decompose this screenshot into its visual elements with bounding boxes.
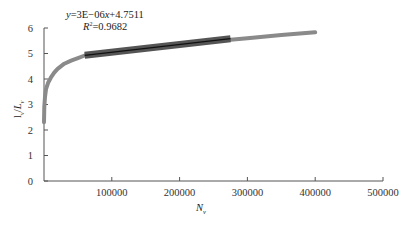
y-axis-title: lv/Lv xyxy=(12,100,25,118)
x-axis-title: Nv xyxy=(195,202,206,215)
y-tick-label: 0 xyxy=(28,176,33,187)
fit-equation: y=3E−06x+4.7511 xyxy=(65,9,144,20)
x-tick-label: 300000 xyxy=(232,187,264,198)
y-tick-label: 4 xyxy=(28,74,34,85)
y-tick-label: 6 xyxy=(28,23,33,34)
x-tick-label: 100000 xyxy=(96,187,128,198)
x-tick-label: 200000 xyxy=(164,187,196,198)
y-tick-label: 5 xyxy=(28,48,33,59)
x-ticks: 100000200000300000400000500000 xyxy=(96,177,399,198)
chart: 0123456 100000200000300000400000500000 y… xyxy=(0,0,410,226)
y-tick-label: 3 xyxy=(28,99,33,110)
plot-area xyxy=(44,32,315,122)
y-tick-label: 2 xyxy=(28,125,33,136)
axes: 0123456 100000200000300000400000500000 xyxy=(28,23,399,199)
r-squared: R2=0.9682 xyxy=(82,21,127,32)
x-tick-label: 400000 xyxy=(299,187,331,198)
fit-trendline xyxy=(85,39,231,56)
y-tick-label: 1 xyxy=(28,150,33,161)
x-tick-label: 500000 xyxy=(367,187,399,198)
